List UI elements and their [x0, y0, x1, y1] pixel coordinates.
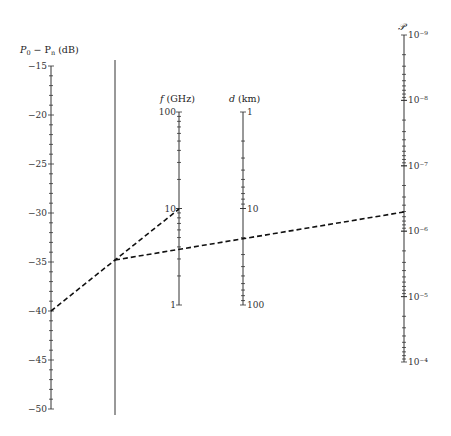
- frequency-axis-title: f (GHz): [159, 93, 195, 104]
- distance-tick-label: 10: [247, 204, 259, 214]
- power-tick-label: −40: [28, 306, 47, 316]
- distance-tick-label: 1: [247, 107, 253, 117]
- power-axis: −15−20−25−30−35−40−45−50: [28, 61, 54, 414]
- power-tick-label: −35: [28, 257, 47, 267]
- example-line-2: [115, 212, 404, 260]
- distance-tick-label: 100: [247, 300, 264, 310]
- distance-axis: 110100: [240, 107, 264, 310]
- frequency-tick-label: 100: [159, 107, 176, 117]
- power-tick-label: −25: [28, 159, 47, 169]
- probability-tick-label: 10⁻⁴: [408, 357, 428, 367]
- power-tick-label: −45: [28, 355, 47, 365]
- power-tick-label: −15: [28, 61, 47, 71]
- probability-tick-label: 10⁻⁹: [408, 30, 428, 40]
- nomogram-chart: −15−20−25−30−35−40−45−50 P0 − Pn (dB) 10…: [0, 0, 451, 436]
- frequency-tick-label: 1: [170, 300, 176, 310]
- probability-tick-label: 10⁻⁵: [408, 292, 428, 302]
- frequency-tick-label: 10: [165, 204, 177, 214]
- probability-axis: 10⁻⁹10⁻⁸10⁻⁷10⁻⁶10⁻⁵10⁻⁴: [401, 30, 428, 367]
- power-axis-title: P0 − Pn (dB): [19, 44, 79, 57]
- probability-tick-label: 10⁻⁷: [408, 161, 428, 171]
- probability-axis-title: 𝒫: [398, 21, 408, 32]
- power-tick-label: −50: [28, 404, 47, 414]
- probability-tick-label: 10⁻⁸: [408, 95, 428, 105]
- power-tick-label: −30: [28, 208, 47, 218]
- power-tick-label: −20: [28, 110, 47, 120]
- probability-tick-label: 10⁻⁶: [408, 226, 428, 236]
- distance-axis-title: d (km): [229, 93, 260, 104]
